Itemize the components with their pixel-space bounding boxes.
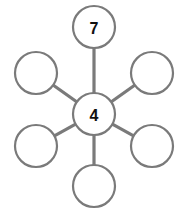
- diagram-canvas: 74: [0, 0, 185, 216]
- outer-node-bottom[interactable]: [73, 165, 115, 207]
- spoke-upper-left: [52, 85, 77, 103]
- node-circle-bottom[interactable]: [73, 165, 115, 207]
- outer-node-upper-right[interactable]: [131, 52, 173, 94]
- node-circle-upper-left[interactable]: [15, 52, 57, 94]
- spoke-lower-right: [112, 124, 135, 137]
- spoke-upper-right: [110, 85, 135, 103]
- node-circle-upper-right[interactable]: [131, 52, 173, 94]
- nodes-group: 74: [15, 6, 173, 207]
- node-circle-lower-left[interactable]: [15, 125, 57, 167]
- outer-node-upper-left[interactable]: [15, 52, 57, 94]
- node-circle-lower-right[interactable]: [131, 125, 173, 167]
- node-label-top: 7: [90, 20, 99, 37]
- outer-node-lower-left[interactable]: [15, 125, 57, 167]
- spoke-lower-left: [54, 124, 77, 137]
- hub-and-spoke-diagram: 74: [0, 0, 185, 216]
- node-label-center: 4: [90, 107, 99, 124]
- center-node-center[interactable]: 4: [73, 93, 115, 135]
- outer-node-lower-right[interactable]: [131, 125, 173, 167]
- outer-node-top[interactable]: 7: [73, 6, 115, 48]
